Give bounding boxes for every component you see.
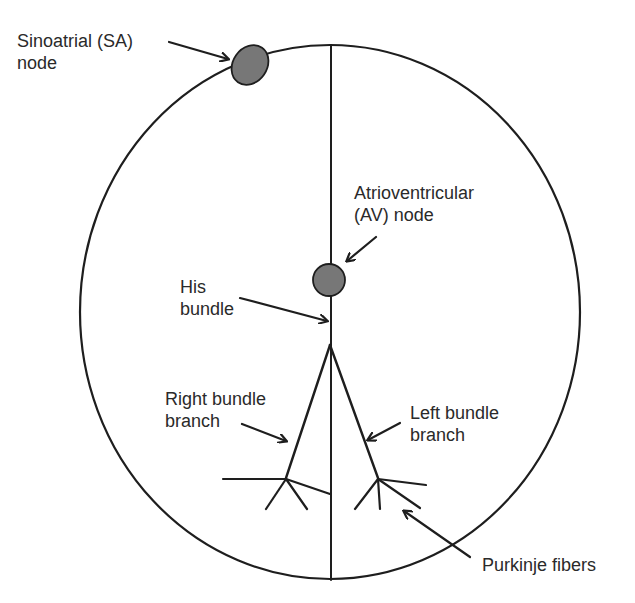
sa-node-arrow [169,42,228,59]
his-bundle-label-line2: bundle [180,298,234,320]
av-node-label: Atrioventricular (AV) node [354,182,474,226]
sa-node-label-line1: Sinoatrial (SA) [17,30,133,52]
left-bundle-branch-label: Left bundle branch [410,402,499,446]
purkinje-fibers-arrow [404,511,470,557]
right-bundle-branch-line [286,345,330,478]
right-bundle-branch-label-line2: branch [165,410,266,432]
right-bundle-branch-label: Right bundle branch [165,388,266,432]
sa-node-label: Sinoatrial (SA) node [17,30,133,74]
left-bundle-branch-label-line1: Left bundle [410,402,499,424]
purkinje-fibers-label-line1: Purkinje fibers [482,554,596,576]
his-bundle-label: His bundle [180,276,234,320]
av-node-label-line1: Atrioventricular [354,182,474,204]
left-bundle-branch-label-line2: branch [410,424,499,446]
sa-node [224,38,276,92]
his-bundle-label-line1: His [180,276,234,298]
left-bundle-branch-line [330,345,378,478]
conduction-diagram [0,0,635,603]
purkinje-fibers-label: Purkinje fibers [482,554,596,576]
av-node [313,264,345,296]
left-bundle-branch-arrow [368,423,400,440]
sa-node-label-line2: node [17,52,133,74]
right-purkinje-fibers [223,479,330,509]
av-node-arrow [347,237,376,261]
his-bundle-arrow [240,298,327,321]
left-purkinje-fibers [355,479,426,509]
av-node-label-line2: (AV) node [354,204,474,226]
right-bundle-branch-label-line1: Right bundle [165,388,266,410]
